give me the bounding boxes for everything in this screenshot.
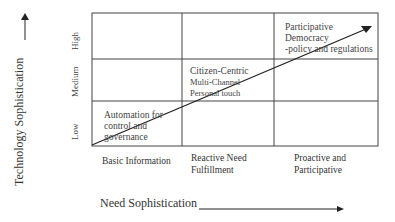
y-axis-label: Technology Sophistication [12,58,27,186]
cell-medium-reactive: Citizen-Centric Multi-Channel Personal t… [190,66,249,99]
cell-high-proactive: Participative Democracy -policy and regu… [285,22,373,55]
cell-low-basic: Automation for control and governance [104,110,163,143]
x-level-basic: Basic Information [102,155,171,167]
y-level-medium: Medium [70,67,80,98]
x-axis-arrowhead-icon [337,206,344,212]
x-level-reactive: Reactive Need Fulfillment [191,152,247,176]
y-level-high: High [70,32,80,50]
x-axis-label: Need Sophistication [100,196,197,211]
y-axis-arrowhead-icon [21,13,29,20]
x-level-proactive: Proactive and Participative [294,152,346,176]
y-level-low: Low [70,124,80,141]
